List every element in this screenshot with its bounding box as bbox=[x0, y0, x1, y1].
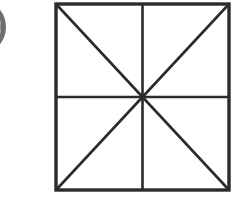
figure-canvas bbox=[0, 0, 234, 207]
badge-container bbox=[0, 0, 6, 59]
numbered-circle-badge-icon bbox=[0, 0, 6, 55]
square-with-diagonals-figure bbox=[52, 0, 234, 196]
